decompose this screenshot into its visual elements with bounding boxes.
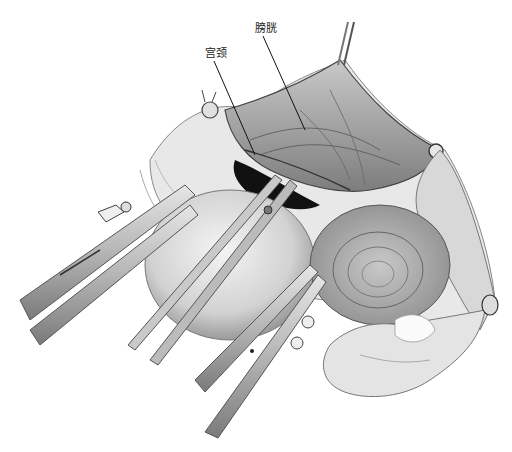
left-top-suture [202,90,218,118]
right-clamp-knot [482,295,498,315]
right-adnexa [310,205,450,325]
bladder-label: 膀胱 [255,23,277,34]
ovary [323,310,485,397]
left-suture [98,202,131,222]
surgical-illustration [0,0,512,452]
top-retractor [338,22,354,65]
cervix-label: 宫颈 [205,48,227,59]
